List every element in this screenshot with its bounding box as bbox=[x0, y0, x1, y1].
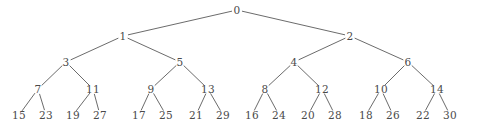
tree-node-18: 18 bbox=[359, 110, 373, 121]
tree-node-10: 10 bbox=[374, 84, 388, 95]
tree-node-24: 24 bbox=[272, 110, 286, 121]
tree-node-3: 3 bbox=[63, 57, 70, 68]
tree-node-13: 13 bbox=[201, 84, 215, 95]
tree-node-9: 9 bbox=[148, 84, 155, 95]
tree-node-6: 6 bbox=[405, 57, 412, 68]
tree-node-2: 2 bbox=[347, 31, 354, 42]
tree-node-22: 22 bbox=[416, 110, 430, 121]
tree-node-1: 1 bbox=[120, 31, 127, 42]
tree-node-14: 14 bbox=[430, 84, 444, 95]
binary-tree-diagram: 0123546711913812101415231927172521291624… bbox=[0, 0, 477, 130]
tree-node-0: 0 bbox=[234, 5, 241, 16]
tree-node-4: 4 bbox=[291, 57, 298, 68]
tree-node-26: 26 bbox=[386, 110, 400, 121]
tree-node-30: 30 bbox=[443, 110, 457, 121]
tree-node-5: 5 bbox=[177, 57, 184, 68]
tree-node-23: 23 bbox=[39, 110, 53, 121]
tree-node-17: 17 bbox=[132, 110, 146, 121]
tree-node-20: 20 bbox=[301, 110, 315, 121]
tree-node-28: 28 bbox=[328, 110, 342, 121]
tree-node-21: 21 bbox=[189, 110, 203, 121]
tree-node-19: 19 bbox=[66, 110, 80, 121]
tree-node-12: 12 bbox=[315, 84, 329, 95]
tree-node-7: 7 bbox=[35, 84, 42, 95]
tree-node-11: 11 bbox=[86, 84, 100, 95]
tree-node-8: 8 bbox=[262, 84, 269, 95]
tree-node-29: 29 bbox=[216, 110, 230, 121]
tree-node-15: 15 bbox=[12, 110, 26, 121]
tree-node-25: 25 bbox=[159, 110, 173, 121]
tree-node-16: 16 bbox=[245, 110, 259, 121]
tree-node-27: 27 bbox=[93, 110, 107, 121]
tree-node-layer: 0123546711913812101415231927172521291624… bbox=[0, 0, 477, 130]
